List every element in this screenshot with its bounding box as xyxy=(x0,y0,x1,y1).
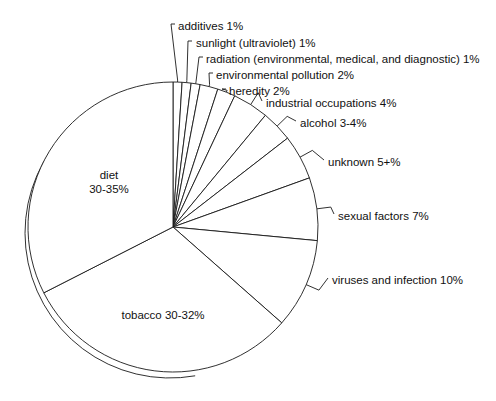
slice-label-alcohol: alcohol 3-4% xyxy=(300,117,366,129)
slice-label-diet-line1: diet xyxy=(100,169,119,181)
pie-chart-canvas: additives 1% sunlight (ultraviolet) 1% r… xyxy=(0,0,496,401)
leader-line xyxy=(171,24,178,82)
slice-label-industrial-occupations: industrial occupations 4% xyxy=(266,97,396,109)
leader-line xyxy=(306,278,328,290)
leader-line xyxy=(209,73,213,87)
slice-label-radiation: radiation (environmental, medical, and d… xyxy=(206,53,480,65)
slice-label-tobacco: tobacco 30-32% xyxy=(121,309,204,321)
slice-label-viruses-and-infection: viruses and infection 10% xyxy=(332,274,463,286)
leader-line xyxy=(196,57,203,84)
pie-slices-group xyxy=(28,82,318,372)
slice-label-environmental-pollution: environmental pollution 2% xyxy=(216,69,354,81)
slice-label-unknown: unknown 5+% xyxy=(328,156,401,168)
pie-chart: additives 1% sunlight (ultraviolet) 1% r… xyxy=(0,0,496,401)
slice-label-heredity: heredity 2% xyxy=(229,85,290,97)
leader-line xyxy=(317,207,334,214)
slice-label-diet-line2: 30-35% xyxy=(89,183,129,195)
leader-line xyxy=(300,150,324,160)
leader-line xyxy=(277,116,296,126)
slice-label-additives: additives 1% xyxy=(178,20,243,32)
leader-line xyxy=(187,41,192,83)
slice-label-sunlight: sunlight (ultraviolet) 1% xyxy=(196,37,316,49)
slice-label-sexual-factors: sexual factors 7% xyxy=(338,210,429,222)
